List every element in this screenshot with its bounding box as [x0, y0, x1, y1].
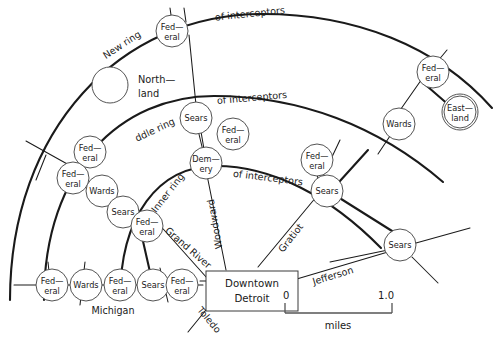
ring-road-map: Downtown Detroit Fed— eral Fed— eral Eas…: [0, 0, 502, 338]
node-label-line1: Fed—: [79, 143, 102, 153]
node-federal-new-right[interactable]: Fed— eral: [417, 56, 449, 88]
node-sears-mid-right[interactable]: Sears: [311, 175, 343, 207]
node-label-line2: eral: [174, 286, 190, 296]
node-label-line1: Sears: [185, 113, 208, 123]
woodward-road-top: [189, 35, 196, 105]
place-labels: North— land: [138, 74, 175, 99]
node-sears-mid-top[interactable]: Sears: [180, 102, 212, 134]
woodward-road-tip: [184, 8, 186, 22]
scale-bar: 0 1.0 miles: [283, 290, 394, 331]
inner-ring-suffix-label: of interceptors: [233, 168, 304, 187]
node-label-line1: Fed—: [161, 22, 184, 32]
woodward-label: Woodward: [205, 198, 225, 249]
node-demery[interactable]: Dem— ery: [190, 147, 222, 179]
jefferson-road-east: [416, 228, 470, 243]
node-label-line2: eral: [112, 286, 128, 296]
middle-ring-suffix-label: of interceptors: [216, 89, 287, 106]
node-label-line1: Wards: [73, 280, 98, 290]
node-label-line1: East—: [447, 103, 473, 113]
node-label-line2: eral: [139, 227, 155, 237]
new-ring-label: New ring: [101, 28, 143, 61]
node-label-line2: eral: [164, 32, 180, 42]
node-federal-michigan-2[interactable]: Fed— eral: [104, 269, 136, 301]
node-label-line1: Fed—: [109, 276, 132, 286]
node-label-line1: Fed—: [62, 169, 85, 179]
node-label-line1: Fed—: [306, 151, 329, 161]
node-label-line1: Sears: [142, 280, 165, 290]
node-label-line1: Fed—: [171, 276, 194, 286]
gratiot-label: Gratiot: [276, 221, 305, 254]
node-sears-bottom-right[interactable]: Sears: [384, 229, 416, 261]
scale-unit-label: miles: [325, 320, 352, 331]
node-label-line2: eral: [225, 135, 241, 145]
node-federal-michigan-3[interactable]: Fed— eral: [166, 269, 198, 301]
jefferson-label: Jefferson: [310, 264, 354, 287]
node-label-line1: Fed—: [222, 125, 245, 135]
node-label-line2: ery: [199, 164, 212, 174]
sears-br-spur: [412, 257, 438, 283]
node-label-line2: eral: [82, 153, 98, 163]
scale-max-label: 1.0: [378, 290, 394, 301]
upper-left-radial-far: [36, 155, 46, 180]
node-label-line2: eral: [44, 286, 60, 296]
northland-label-line2: land: [138, 88, 159, 99]
node-federal-mid-right[interactable]: Fed— eral: [301, 144, 333, 176]
node-sears-michigan[interactable]: Sears: [137, 269, 169, 301]
node-label-line2: eral: [65, 179, 81, 189]
northland-circle: [92, 67, 128, 103]
node-federal-inner[interactable]: Fed— eral: [131, 210, 163, 242]
node-label-line1: Sears: [316, 186, 339, 196]
node-eastland[interactable]: East— land: [444, 96, 476, 128]
node-label-line1: Sears: [112, 207, 135, 217]
new-ring-suffix-label: of interceptors: [214, 4, 285, 22]
node-federal-michigan-1[interactable]: Fed— eral: [36, 269, 68, 301]
map-canvas: Downtown Detroit Fed— eral Fed— eral Eas…: [0, 0, 502, 338]
node-label-line1: Fed—: [422, 63, 445, 73]
grand-river-label: Grand River: [163, 225, 214, 271]
node-federal-left-mid[interactable]: Fed— eral: [57, 162, 89, 194]
node-label-line1: Dem—: [192, 154, 220, 164]
node-label-line1: Wards: [386, 119, 411, 129]
node-label-line1: Fed—: [41, 276, 64, 286]
node-wards-michigan[interactable]: Wards: [70, 269, 102, 301]
node-federal-new-top[interactable]: Fed— eral: [156, 15, 188, 47]
scale-min-label: 0: [283, 290, 289, 301]
middle-ring-label: ddle ring: [133, 116, 176, 144]
node-wards-mid-right[interactable]: Wards: [383, 108, 415, 140]
node-label-line2: eral: [309, 161, 325, 171]
node-label-line2: eral: [425, 73, 441, 83]
downtown-label-line1: Downtown: [225, 278, 279, 289]
node-label-line2: land: [451, 113, 469, 123]
downtown-label-line2: Detroit: [234, 293, 269, 304]
node-label-line1: Sears: [389, 240, 412, 250]
scale-bar-line: [285, 303, 392, 313]
michigan-label: Michigan: [91, 305, 134, 316]
node-label-line1: Fed—: [136, 217, 159, 227]
node-federal-mid-a[interactable]: Fed— eral: [217, 118, 249, 150]
northland-label-line1: North—: [138, 74, 175, 85]
node-label-line1: Wards: [89, 186, 114, 196]
